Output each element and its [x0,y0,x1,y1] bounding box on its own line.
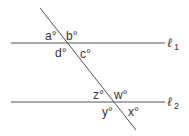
line-l2-subscript: 2 [174,101,179,111]
angle-d-label: d° [55,46,67,60]
angle-w-label: w° [113,88,128,102]
angle-a-label: a° [45,29,57,43]
angle-b-label: b° [66,29,78,43]
line-l1-subscript: 1 [174,42,179,52]
line-l2-label: ℓ [167,94,173,109]
diagram-canvas: a° b° d° c° z° w° y° x° ℓ 1 ℓ 2 [0,0,189,136]
angle-c-label: c° [80,47,91,61]
angle-y-label: y° [102,105,113,119]
transversal [40,8,136,130]
angle-x-label: x° [128,105,139,119]
angle-z-label: z° [93,88,104,102]
line-l1-label: ℓ [167,35,173,50]
